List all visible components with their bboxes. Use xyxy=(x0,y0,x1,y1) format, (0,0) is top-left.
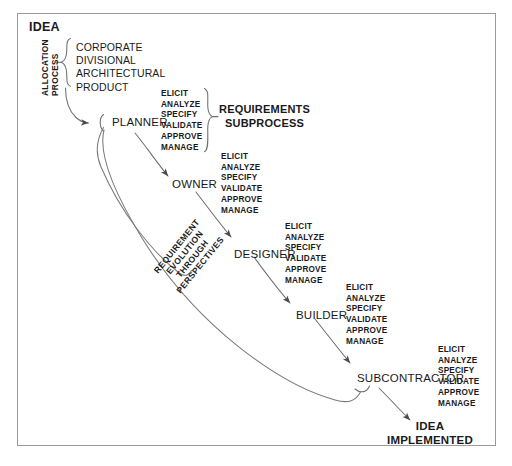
step: MANAGE xyxy=(438,399,479,410)
step: MANAGE xyxy=(285,276,326,287)
allocation-categories: CORPORATE DIVISIONAL ARCHITECTURAL PRODU… xyxy=(76,41,165,94)
step: ELICIT xyxy=(285,222,326,233)
step: ELICIT xyxy=(221,152,262,163)
allocation-category: PRODUCT xyxy=(76,81,165,94)
allocation-process-line2: PROCESS xyxy=(51,39,61,96)
role-planner: PLANNER xyxy=(112,117,168,129)
step: APPROVE xyxy=(221,195,262,206)
step: ANALYZE xyxy=(285,233,326,244)
diagram-canvas: IDEA ALLOCATION PROCESS CORPORATE DIVISI… xyxy=(0,0,512,466)
step: VALIDATE xyxy=(285,254,326,265)
allocation-process-label: ALLOCATION PROCESS xyxy=(41,39,60,96)
step: VALIDATE xyxy=(346,315,387,326)
role-owner: OWNER xyxy=(172,179,217,191)
steps-owner: ELICIT ANALYZE SPECIFY VALIDATE APPROVE … xyxy=(221,152,262,216)
step: ANALYZE xyxy=(346,294,387,305)
idea-implemented-line1: IDEA xyxy=(387,419,473,433)
steps-planner: ELICIT ANALYZE SPECIFY VALIDATE APPROVE … xyxy=(161,89,202,153)
step: VALIDATE xyxy=(221,184,262,195)
steps-builder: ELICIT ANALYZE SPECIFY VALIDATE APPROVE … xyxy=(346,283,387,347)
allocation-category: DIVISIONAL xyxy=(76,54,165,67)
steps-subcontractor: ELICIT ANALYZE SPECIFY VALIDATE APPROVE … xyxy=(438,345,479,409)
allocation-category: ARCHITECTURAL xyxy=(76,67,165,80)
step: MANAGE xyxy=(161,143,202,154)
step: SPECIFY xyxy=(161,110,202,121)
step: ANALYZE xyxy=(438,356,479,367)
step: MANAGE xyxy=(221,206,262,217)
step: SPECIFY xyxy=(346,304,387,315)
step: ANALYZE xyxy=(161,100,202,111)
idea-implemented-label: IDEA IMPLEMENTED xyxy=(387,419,473,447)
requirements-subprocess-line1: REQUIREMENTS xyxy=(219,103,310,117)
role-builder: BUILDER xyxy=(296,310,347,322)
step: ELICIT xyxy=(161,89,202,100)
step: VALIDATE xyxy=(161,121,202,132)
step: ELICIT xyxy=(438,345,479,356)
step: ANALYZE xyxy=(221,163,262,174)
step: APPROVE xyxy=(161,132,202,143)
step: VALIDATE xyxy=(438,377,479,388)
requirements-subprocess-label: REQUIREMENTS SUBPROCESS xyxy=(219,103,310,130)
step: SPECIFY xyxy=(285,243,326,254)
step: SPECIFY xyxy=(221,173,262,184)
step: SPECIFY xyxy=(438,366,479,377)
requirements-subprocess-line2: SUBPROCESS xyxy=(219,117,310,131)
step: ELICIT xyxy=(346,283,387,294)
allocation-category: CORPORATE xyxy=(76,41,165,54)
step: MANAGE xyxy=(346,337,387,348)
step: APPROVE xyxy=(438,388,479,399)
idea-implemented-line2: IMPLEMENTED xyxy=(387,433,473,447)
idea-start-label: IDEA xyxy=(29,21,60,34)
steps-designer: ELICIT ANALYZE SPECIFY VALIDATE APPROVE … xyxy=(285,222,326,286)
step: APPROVE xyxy=(346,326,387,337)
step: APPROVE xyxy=(285,265,326,276)
